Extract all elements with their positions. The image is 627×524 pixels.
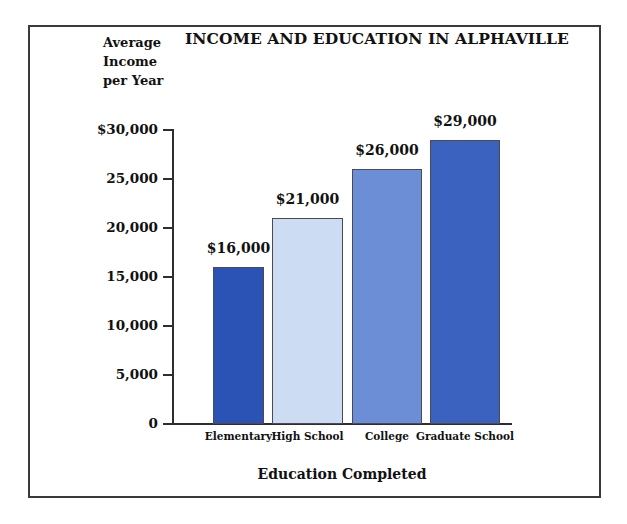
y-axis-tick	[163, 227, 173, 229]
bar-graduate-school[interactable]	[430, 140, 500, 424]
y-axis-tick	[163, 374, 173, 376]
y-axis-tick-label: 5,000	[80, 366, 158, 382]
y-axis-tick	[163, 178, 173, 180]
y-axis-tick-label: 0	[80, 415, 158, 431]
bar-value-label: $29,000	[405, 113, 525, 129]
bar-value-label: $21,000	[248, 191, 368, 207]
x-axis-category-label: Graduate School	[405, 430, 525, 442]
y-axis-tick-label: 10,000	[80, 317, 158, 333]
y-axis-tick-label: 20,000	[80, 219, 158, 235]
bar-college[interactable]	[352, 169, 422, 424]
x-axis-title: Education Completed	[172, 466, 512, 482]
y-axis-tick-label: 15,000	[80, 268, 158, 284]
bar-value-label: $26,000	[327, 142, 447, 158]
y-axis-tick-label: $30,000	[80, 121, 158, 137]
y-axis-tick	[163, 276, 173, 278]
bar-high-school[interactable]	[272, 218, 343, 424]
y-axis-tick	[163, 423, 173, 425]
y-axis-tick-label: 25,000	[80, 170, 158, 186]
bar-elementary[interactable]	[213, 267, 264, 424]
y-axis-tick	[163, 129, 173, 131]
plot-area: $30,00025,00020,00015,00010,0005,0000 $1…	[0, 0, 627, 524]
y-axis-tick	[163, 325, 173, 327]
